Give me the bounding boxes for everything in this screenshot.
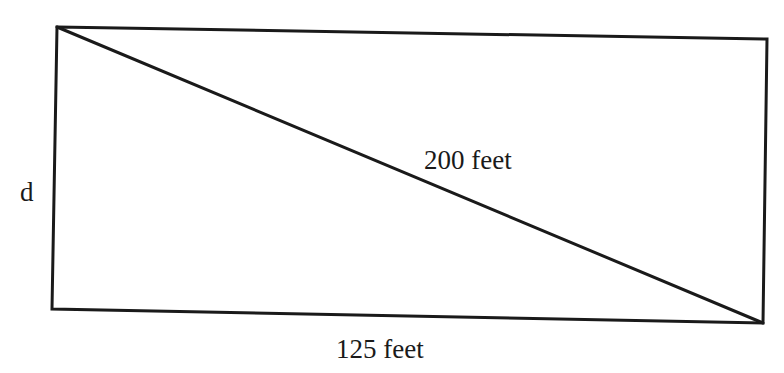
bottom-label: 125 feet (336, 334, 424, 364)
rectangle-diagram: d 200 feet 125 feet (0, 0, 784, 373)
side-label-d: d (20, 177, 34, 207)
diagonal-label: 200 feet (424, 145, 512, 175)
diagonal-line (57, 27, 763, 323)
